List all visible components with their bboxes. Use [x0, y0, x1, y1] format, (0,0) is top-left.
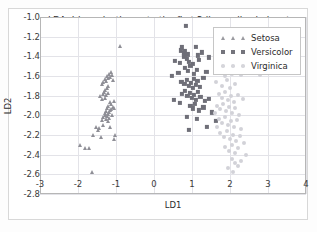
- y-tick-label: -2.8: [23, 189, 40, 199]
- triangle-marker-icon: [231, 36, 235, 40]
- y-tick-label: -1.6: [23, 71, 40, 81]
- x-tick-label: 3: [265, 179, 270, 189]
- y-tick-label: -2.2: [23, 130, 40, 140]
- square-marker-icon: [231, 50, 235, 54]
- legend-item-2: Virginica: [218, 59, 296, 73]
- y-tick-label: -1.8: [23, 91, 40, 101]
- y-tick-label: -2.6: [23, 169, 40, 179]
- y-tick-label: -1.4: [23, 51, 40, 61]
- circle-marker-icon: [241, 64, 245, 68]
- circle-marker-icon: [221, 64, 225, 68]
- legend-item-0: Setosa: [218, 31, 296, 45]
- legend-marker-1: [218, 50, 248, 54]
- x-axis-label: LD1: [40, 200, 306, 210]
- x-tick-label: 1: [189, 179, 194, 189]
- y-tick-label: -2.0: [23, 110, 40, 120]
- y-tick-label: -1.0: [23, 12, 40, 22]
- legend-label-virginica: Virginica: [248, 61, 288, 71]
- square-marker-icon: [241, 50, 245, 54]
- circle-marker-icon: [231, 64, 235, 68]
- legend-label-versicolor: Versicolor: [248, 47, 293, 57]
- legend-item-1: Versicolor: [218, 45, 296, 59]
- gridline-vertical: [306, 17, 307, 194]
- triangle-marker-icon: [241, 36, 245, 40]
- y-axis-label: LD2: [2, 17, 14, 194]
- y-axis-label-text: LD2: [3, 97, 13, 114]
- x-tick-label: 4: [303, 179, 308, 189]
- x-tick-label: 0: [151, 179, 156, 189]
- x-tick-label: -3: [36, 179, 44, 189]
- triangle-marker-icon: [221, 36, 225, 40]
- y-tick-label: -2.4: [23, 150, 40, 160]
- gridline-horizontal: [40, 194, 306, 195]
- legend[interactable]: Setosa Versicolor Virginica: [213, 27, 301, 75]
- figure-canvas: LDA: Iris projection onto the first 2 li…: [0, 0, 317, 232]
- x-tick-label: -1: [112, 179, 120, 189]
- x-tick-label: -2: [74, 179, 82, 189]
- x-tick-label: 2: [227, 179, 232, 189]
- legend-marker-0: [218, 36, 248, 40]
- legend-label-setosa: Setosa: [248, 33, 280, 43]
- y-tick-label: -1.2: [23, 32, 40, 42]
- square-marker-icon: [221, 50, 225, 54]
- legend-marker-2: [218, 64, 248, 68]
